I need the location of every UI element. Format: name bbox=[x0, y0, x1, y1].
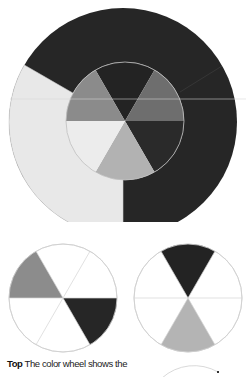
small-wheel-left bbox=[9, 244, 117, 352]
partial-wheel-bottom-right bbox=[162, 366, 219, 377]
book-page: Top The color wheel shows the bbox=[0, 0, 246, 377]
caption-lead: Top bbox=[7, 358, 23, 369]
main-color-wheel bbox=[9, 8, 246, 236]
caption-text: The color wheel shows the bbox=[23, 358, 128, 369]
small-wheel-right bbox=[134, 244, 242, 352]
color-wheel-diagrams bbox=[0, 0, 246, 377]
inner-wheel bbox=[66, 62, 184, 180]
figure-caption: Top The color wheel shows the bbox=[7, 358, 127, 369]
